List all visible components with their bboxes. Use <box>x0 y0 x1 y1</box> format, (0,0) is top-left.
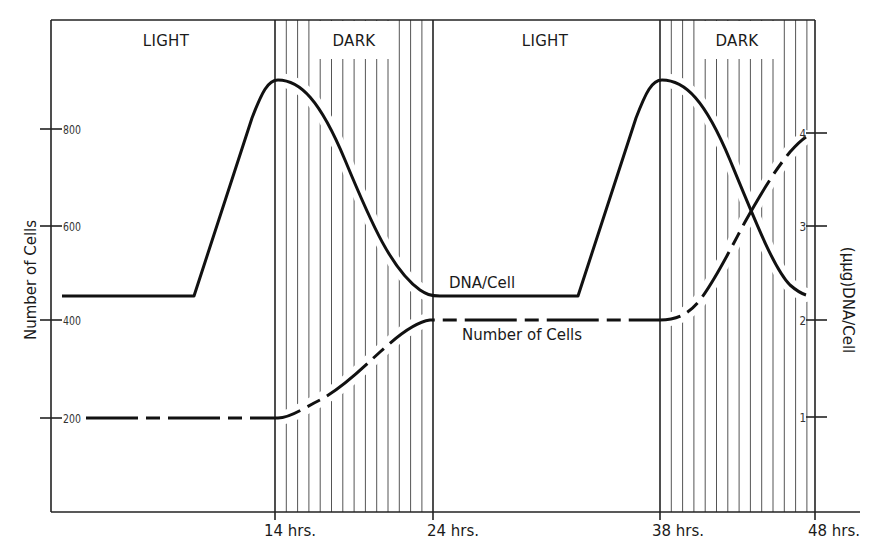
y-left-tick-600: 600 <box>63 219 81 234</box>
phase-label-dark-1: DARK <box>332 32 375 50</box>
x-tick-14hrs: 14 hrs. <box>264 522 316 540</box>
chart-canvas <box>0 0 871 551</box>
y-left-tick-200: 200 <box>63 411 81 426</box>
y-left-tick-800: 800 <box>63 122 81 137</box>
dna-per-cell-label: DNA/Cell <box>449 274 515 292</box>
number-of-cells-label: Number of Cells <box>462 326 582 344</box>
phase-label-dark-2: DARK <box>715 32 758 50</box>
y-right-tick-4: 4 <box>799 126 806 141</box>
x-tick-48hrs: 48 hrs. <box>808 522 860 540</box>
phase-label-light-2: LIGHT <box>522 32 568 50</box>
y-left-tick-400: 400 <box>63 313 81 328</box>
y-right-tick-2: 2 <box>799 313 806 328</box>
phase-label-light-1: LIGHT <box>143 32 189 50</box>
y-right-tick-3: 3 <box>799 219 806 234</box>
y-right-tick-1: 1 <box>799 410 806 425</box>
y-right-axis-title: (µµg)DNA/Cell <box>839 247 857 353</box>
x-tick-38hrs: 38 hrs. <box>652 522 704 540</box>
y-left-axis-title: Number of Cells <box>22 220 40 340</box>
x-tick-24hrs: 24 hrs. <box>427 522 479 540</box>
